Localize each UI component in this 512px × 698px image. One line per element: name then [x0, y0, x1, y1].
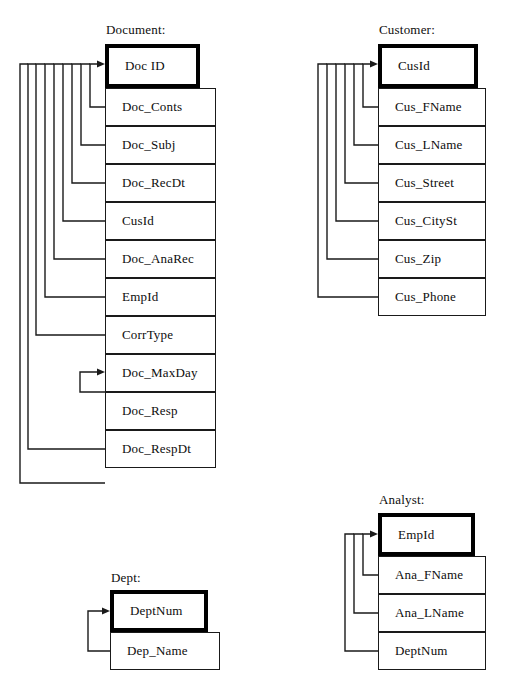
- arrowhead-document-pk: [97, 61, 105, 68]
- document-attribute-doc-subj[interactable]: Doc_Subj: [105, 126, 216, 164]
- analyst-attribute-ana-lname[interactable]: Ana_LName: [378, 594, 486, 632]
- analyst-attr-label: Ana_FName: [379, 567, 463, 583]
- arrowhead-dept-pk: [102, 608, 110, 615]
- document-attr-label: Doc_Resp: [106, 403, 178, 419]
- customer-attribute-cus-lname[interactable]: Cus_LName: [378, 126, 486, 164]
- analyst-attribute-ana-fname[interactable]: Ana_FName: [378, 556, 486, 594]
- document-attr-label: EmpId: [106, 289, 158, 305]
- wire-cus-fname-to-pk: [363, 64, 378, 107]
- document-attribute-doc-conts[interactable]: Doc_Conts: [105, 88, 216, 126]
- customer-attr-label: Cus_FName: [379, 99, 462, 115]
- document-attribute-doc-anarec[interactable]: Doc_AnaRec: [105, 240, 216, 278]
- document-attr-label: Doc_RespDt: [106, 441, 191, 457]
- document-attribute-doc-maxday[interactable]: Doc_MaxDay: [105, 354, 216, 392]
- document-attr-label: Doc_MaxDay: [106, 365, 198, 381]
- customer-attr-label: Cus_CitySt: [379, 213, 457, 229]
- wire-cus-street-to-pk: [345, 64, 378, 183]
- analyst-primary-key-box[interactable]: EmpId: [378, 513, 475, 556]
- arrowhead-corrtype: [97, 369, 105, 376]
- wire-doc-corrtype-to-pk: [36, 64, 105, 335]
- wire-doc-maxday-to-corrtype: [80, 372, 105, 392]
- document-attr-label: Doc_AnaRec: [106, 251, 194, 267]
- document-attr-label: Doc_Conts: [106, 99, 182, 115]
- wire-doc-conts-to-pk: [90, 64, 105, 107]
- document-attribute-doc-recdt[interactable]: Doc_RecDt: [105, 164, 216, 202]
- wire-cus-cityst-to-pk: [336, 64, 378, 221]
- customer-attr-label: Cus_Street: [379, 175, 454, 191]
- dept-attribute-dep-name[interactable]: Dep_Name: [110, 632, 220, 670]
- document-attribute-doc-resp[interactable]: Doc_Resp: [105, 392, 216, 430]
- wire-cus-zip-to-pk: [327, 64, 378, 259]
- document-attr-label: Doc_Subj: [106, 137, 176, 153]
- wire-doc-recdt-to-pk: [72, 64, 105, 183]
- customer-attr-label: Cus_Zip: [379, 251, 441, 267]
- document-primary-key-box[interactable]: Doc ID: [105, 44, 200, 88]
- customer-attribute-cus-phone[interactable]: Cus_Phone: [378, 278, 486, 316]
- analyst-pk-label: EmpId: [382, 527, 434, 543]
- wire-doc-cusid-to-pk: [63, 64, 105, 221]
- customer-attribute-cus-fname[interactable]: Cus_FName: [378, 88, 486, 126]
- document-attribute-empid[interactable]: EmpId: [105, 278, 216, 316]
- wire-doc-resp-to-pk: [28, 64, 105, 449]
- entity-title-analyst: Analyst:: [379, 492, 425, 508]
- document-pk-label: Doc ID: [109, 58, 165, 74]
- analyst-attr-label: Ana_LName: [379, 605, 464, 621]
- customer-attribute-cus-street[interactable]: Cus_Street: [378, 164, 486, 202]
- wire-ana-fname-to-pk: [363, 534, 378, 575]
- dept-primary-key-box[interactable]: DeptNum: [110, 590, 208, 632]
- wire-doc-anarec-to-pk: [54, 64, 105, 259]
- customer-attribute-cus-zip[interactable]: Cus_Zip: [378, 240, 486, 278]
- document-attribute-corrtype[interactable]: CorrType: [105, 316, 216, 354]
- document-attribute-doc-respdt[interactable]: Doc_RespDt: [105, 430, 216, 468]
- wire-doc-subj-to-pk: [81, 64, 105, 145]
- customer-pk-label: CusId: [382, 58, 430, 74]
- customer-primary-key-box[interactable]: CusId: [378, 44, 478, 88]
- entity-title-document: Document:: [106, 22, 166, 38]
- dept-pk-label: DeptNum: [114, 603, 183, 619]
- wire-ana-lname-to-pk: [354, 534, 378, 613]
- document-attribute-cusid[interactable]: CusId: [105, 202, 216, 240]
- dept-attr-label: Dep_Name: [111, 643, 188, 659]
- entity-title-dept: Dept:: [111, 570, 141, 586]
- document-attr-label: CusId: [106, 213, 154, 229]
- customer-attr-label: Cus_LName: [379, 137, 463, 153]
- document-attr-label: CorrType: [106, 327, 173, 343]
- wire-doc-respdt-to-pk: [20, 64, 105, 483]
- arrowhead-analyst-pk: [370, 531, 378, 538]
- wire-ana-deptnum-to-pk: [345, 534, 378, 651]
- schema-diagram-canvas: Document: Doc ID Doc_Conts Doc_Subj Doc_…: [0, 0, 512, 698]
- analyst-attribute-deptnum[interactable]: DeptNum: [378, 632, 486, 670]
- arrowhead-customer-pk: [370, 61, 378, 68]
- analyst-attr-label: DeptNum: [379, 643, 448, 659]
- wire-cus-phone-to-pk: [318, 64, 378, 297]
- wire-cus-lname-to-pk: [354, 64, 378, 145]
- wire-dep-name-to-pk: [88, 611, 110, 651]
- document-attr-label: Doc_RecDt: [106, 175, 185, 191]
- wire-doc-empid-to-pk: [45, 64, 105, 297]
- customer-attr-label: Cus_Phone: [379, 289, 456, 305]
- entity-title-customer: Customer:: [379, 22, 435, 38]
- customer-attribute-cus-cityst[interactable]: Cus_CitySt: [378, 202, 486, 240]
